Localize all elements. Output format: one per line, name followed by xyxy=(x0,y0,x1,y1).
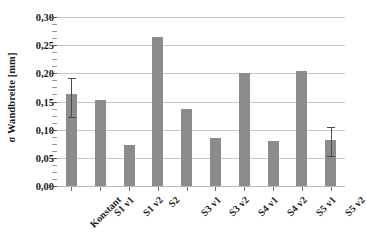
y-axis-label-container: σ Wandbreite [mm] xyxy=(0,0,22,195)
x-axis-category-label: S5 v2 xyxy=(342,194,366,218)
y-axis-minor-tick xyxy=(52,94,57,95)
x-axis-category-label: S5 v1 xyxy=(314,194,338,218)
y-axis-minor-tick xyxy=(52,144,57,145)
x-axis-tick xyxy=(187,187,188,191)
y-axis-minor-tick xyxy=(52,87,57,88)
y-axis-major-tick xyxy=(50,45,57,46)
x-axis-tick xyxy=(331,187,332,191)
y-axis-minor-tick xyxy=(52,24,57,25)
x-axis-tick xyxy=(71,187,72,191)
x-axis-tick xyxy=(129,187,130,191)
y-axis-major-tick xyxy=(50,130,57,131)
y-axis-tick-labels: 0,000,050,100,150,200,250,30 xyxy=(22,0,56,195)
bar[interactable] xyxy=(210,138,221,186)
x-axis-category-label: S2 xyxy=(166,194,181,209)
y-axis-minor-tick xyxy=(52,137,57,138)
plot-area xyxy=(57,17,345,186)
x-axis-tick xyxy=(273,187,274,191)
y-axis-minor-tick xyxy=(52,179,57,180)
error-bar-cap-lower xyxy=(327,156,335,157)
y-axis-minor-tick xyxy=(52,66,57,67)
y-axis-minor-tick xyxy=(52,80,57,81)
error-bar-cap-upper xyxy=(68,78,76,79)
error-bar-line xyxy=(331,127,332,156)
error-bar-cap-lower xyxy=(68,117,76,118)
error-bar-line xyxy=(71,78,72,116)
y-axis-minor-tick xyxy=(52,165,57,166)
y-axis-major-tick xyxy=(50,158,57,159)
y-axis-minor-tick xyxy=(52,31,57,32)
x-axis-category-label: S4 v2 xyxy=(285,194,309,218)
x-axis-tick xyxy=(158,187,159,191)
x-axis-tick xyxy=(244,187,245,191)
bar[interactable] xyxy=(268,141,279,186)
y-axis-minor-tick xyxy=(52,52,57,53)
x-axis-tick xyxy=(215,187,216,191)
y-axis-minor-tick xyxy=(52,59,57,60)
y-axis-minor-tick xyxy=(52,109,57,110)
bar[interactable] xyxy=(296,71,307,186)
y-axis-minor-tick xyxy=(52,38,57,39)
y-axis-minor-tick xyxy=(52,123,57,124)
bar[interactable] xyxy=(124,145,135,186)
error-bar-cap-upper xyxy=(327,127,335,128)
x-axis-category-label: S3 v2 xyxy=(227,194,251,218)
bar[interactable] xyxy=(239,73,250,186)
y-axis-major-tick xyxy=(50,102,57,103)
x-axis-category-label: S3 v1 xyxy=(198,194,222,218)
bar[interactable] xyxy=(152,37,163,186)
x-axis-category-label: S4 v1 xyxy=(256,194,280,218)
y-axis-minor-tick xyxy=(52,151,57,152)
y-axis-major-tick xyxy=(50,17,57,18)
gridline xyxy=(57,45,345,46)
y-axis-label: σ Wandbreite [mm] xyxy=(6,52,17,142)
y-axis-major-tick xyxy=(50,73,57,74)
bar[interactable] xyxy=(181,109,192,186)
y-axis-major-tick xyxy=(50,186,57,187)
y-axis-minor-tick xyxy=(52,116,57,117)
x-axis-category-label: S1 v2 xyxy=(141,194,165,218)
x-axis-tick xyxy=(100,187,101,191)
y-axis-minor-tick xyxy=(52,172,57,173)
x-axis-tick xyxy=(302,187,303,191)
gridline xyxy=(57,17,345,18)
bar[interactable] xyxy=(95,100,106,186)
